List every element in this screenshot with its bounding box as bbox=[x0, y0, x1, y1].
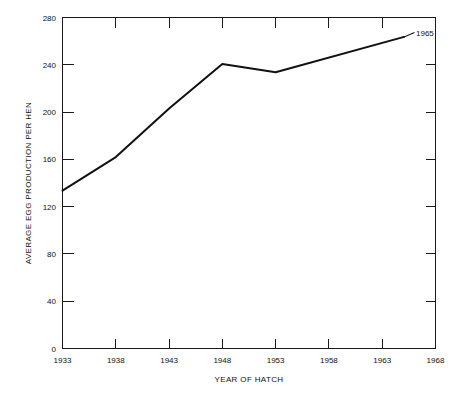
x-tick-label: 1948 bbox=[213, 356, 231, 365]
y-axis-ticks bbox=[63, 18, 74, 349]
y-tick-label: 200 bbox=[43, 108, 57, 117]
series-line-egg-production bbox=[63, 37, 405, 191]
x-tick-label: 1958 bbox=[320, 356, 338, 365]
y-tick-label: 80 bbox=[47, 250, 56, 259]
x-tick-labels: 1933 1938 1943 1948 1953 1958 1963 1968 bbox=[54, 356, 445, 365]
y-tick-label: 120 bbox=[43, 203, 57, 212]
line-chart: 280 240 200 160 120 80 40 0 1933 1938 19… bbox=[0, 0, 471, 399]
y-tick-label: 0 bbox=[52, 345, 57, 354]
x-tick-label: 1938 bbox=[107, 356, 125, 365]
x-tick-label: 1933 bbox=[54, 356, 72, 365]
chart-figure: 280 240 200 160 120 80 40 0 1933 1938 19… bbox=[0, 0, 471, 399]
x-tick-label: 1943 bbox=[160, 356, 178, 365]
y-axis-right-ticks bbox=[426, 65, 436, 301]
x-axis-top-ticks bbox=[116, 18, 382, 28]
y-tick-label: 240 bbox=[43, 61, 57, 70]
x-tick-label: 1953 bbox=[267, 356, 285, 365]
x-tick-label: 1968 bbox=[427, 356, 445, 365]
y-tick-label: 40 bbox=[47, 297, 56, 306]
y-tick-labels: 280 240 200 160 120 80 40 0 bbox=[43, 14, 57, 354]
x-axis-ticks bbox=[63, 339, 436, 349]
y-tick-label: 160 bbox=[43, 155, 57, 164]
y-tick-label: 280 bbox=[43, 14, 57, 23]
annotation-label-1965: 1965 bbox=[416, 29, 434, 38]
y-axis-title: AVERAGE EGG PRODUCTION PER HEN bbox=[24, 102, 33, 264]
annotation-leader-line bbox=[404, 33, 414, 37]
x-axis-title: YEAR OF HATCH bbox=[215, 375, 284, 384]
x-tick-label: 1963 bbox=[373, 356, 391, 365]
